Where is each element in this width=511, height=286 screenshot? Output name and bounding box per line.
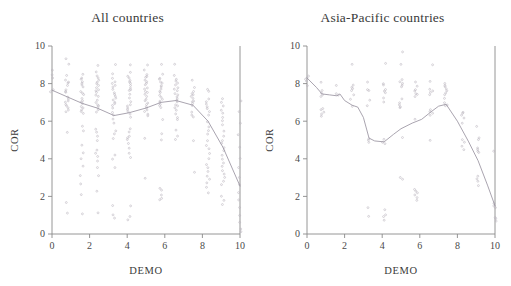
x-tick-label: 0 bbox=[50, 240, 55, 251]
data-point bbox=[221, 204, 223, 206]
data-point bbox=[161, 82, 163, 84]
data-point bbox=[128, 131, 130, 133]
data-point bbox=[220, 195, 222, 197]
data-point bbox=[350, 98, 352, 100]
data-point bbox=[144, 91, 146, 93]
y-tick-label: 6 bbox=[40, 116, 45, 127]
data-point bbox=[82, 73, 84, 75]
data-point bbox=[127, 219, 129, 221]
data-point bbox=[66, 74, 68, 76]
data-point bbox=[113, 133, 115, 135]
data-point bbox=[205, 103, 207, 105]
data-point bbox=[161, 98, 163, 100]
data-point bbox=[206, 186, 208, 188]
data-point bbox=[383, 216, 385, 218]
data-point bbox=[222, 116, 224, 118]
data-point bbox=[98, 84, 100, 86]
data-point bbox=[223, 162, 225, 164]
x-tick-label: 2 bbox=[342, 240, 347, 251]
data-point bbox=[224, 176, 226, 178]
data-point bbox=[79, 175, 81, 177]
data-point bbox=[144, 93, 146, 95]
data-point bbox=[130, 116, 132, 118]
data-point bbox=[463, 141, 465, 143]
data-point bbox=[129, 104, 131, 106]
data-point bbox=[238, 199, 240, 201]
data-point bbox=[383, 101, 385, 103]
data-point bbox=[97, 77, 99, 79]
data-point bbox=[175, 84, 177, 86]
data-point bbox=[65, 111, 67, 113]
data-point bbox=[367, 207, 369, 209]
data-point bbox=[146, 74, 148, 76]
data-point bbox=[399, 102, 401, 104]
data-point bbox=[95, 102, 97, 104]
data-point bbox=[175, 109, 177, 111]
data-point bbox=[220, 109, 222, 111]
y-tick-label: 6 bbox=[295, 116, 300, 127]
data-point bbox=[96, 167, 98, 169]
data-point bbox=[385, 214, 387, 216]
lowess-curve bbox=[52, 90, 240, 186]
data-point bbox=[143, 69, 145, 71]
data-point bbox=[112, 214, 114, 216]
data-point bbox=[174, 107, 176, 109]
data-point bbox=[208, 126, 210, 128]
data-point bbox=[205, 145, 207, 147]
data-point bbox=[112, 88, 114, 90]
data-point bbox=[384, 92, 386, 94]
data-point bbox=[114, 81, 116, 83]
data-point bbox=[81, 125, 83, 127]
data-point bbox=[308, 75, 310, 77]
data-point bbox=[114, 103, 116, 105]
data-point bbox=[493, 150, 495, 152]
data-point bbox=[114, 217, 116, 219]
data-point bbox=[192, 103, 194, 105]
data-point bbox=[128, 77, 130, 79]
data-point bbox=[223, 135, 225, 137]
y-tick-label: 10 bbox=[35, 40, 45, 51]
data-point bbox=[160, 194, 162, 196]
data-point bbox=[476, 178, 478, 180]
data-point bbox=[416, 192, 418, 194]
data-point bbox=[66, 212, 68, 214]
data-point bbox=[175, 129, 177, 131]
data-point bbox=[208, 98, 210, 100]
data-point bbox=[191, 111, 193, 113]
data-point bbox=[476, 125, 478, 127]
data-point bbox=[209, 153, 211, 155]
data-point bbox=[82, 152, 84, 154]
data-point bbox=[113, 122, 115, 124]
data-point bbox=[112, 99, 114, 101]
data-point bbox=[144, 111, 146, 113]
data-point bbox=[130, 85, 132, 87]
data-point bbox=[146, 96, 148, 98]
data-point bbox=[223, 173, 225, 175]
data-point bbox=[144, 88, 146, 90]
data-point bbox=[80, 183, 82, 185]
data-point bbox=[98, 89, 100, 91]
data-point bbox=[208, 158, 210, 160]
data-point bbox=[429, 94, 431, 96]
data-point bbox=[112, 138, 114, 140]
data-point bbox=[415, 190, 417, 192]
data-point bbox=[160, 88, 162, 90]
data-point bbox=[368, 215, 370, 217]
data-point bbox=[176, 119, 178, 121]
data-point bbox=[112, 158, 114, 160]
data-point bbox=[111, 83, 113, 85]
data-point bbox=[146, 87, 148, 89]
y-tick-label: 4 bbox=[40, 153, 45, 164]
data-point bbox=[207, 192, 209, 194]
data-point bbox=[130, 205, 132, 207]
data-point bbox=[160, 86, 162, 88]
data-point bbox=[221, 154, 223, 156]
data-point bbox=[384, 209, 386, 211]
data-point bbox=[127, 143, 129, 145]
data-point bbox=[207, 140, 209, 142]
data-point bbox=[177, 87, 179, 89]
data-point bbox=[237, 134, 239, 136]
data-point bbox=[444, 83, 446, 85]
plot-area-all-countries: 02468100246810DEMOCOR bbox=[0, 0, 255, 286]
data-point bbox=[96, 75, 98, 77]
